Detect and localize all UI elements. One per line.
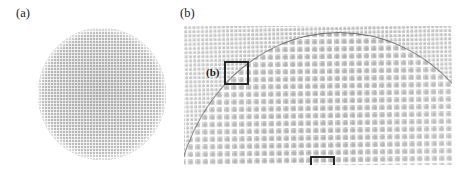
roi-box-a [310,156,335,165]
panel-b-image: (b) (a) [184,26,452,165]
panel-label-a: (a) [16,7,30,20]
disk-rim-feather [38,28,166,160]
roi-box-b [224,61,249,85]
coarse-square-lattice-b-inner [184,32,452,165]
figure-container: (a) (b) (b) (a) [0,0,475,184]
panel-label-b: (b) [180,7,195,20]
dome-region-inner [184,32,452,165]
panel-a-image [24,22,176,172]
roi-box-a-label: (a) [292,163,305,165]
circular-disk [38,28,166,160]
roi-box-b-label: (b) [206,67,219,78]
